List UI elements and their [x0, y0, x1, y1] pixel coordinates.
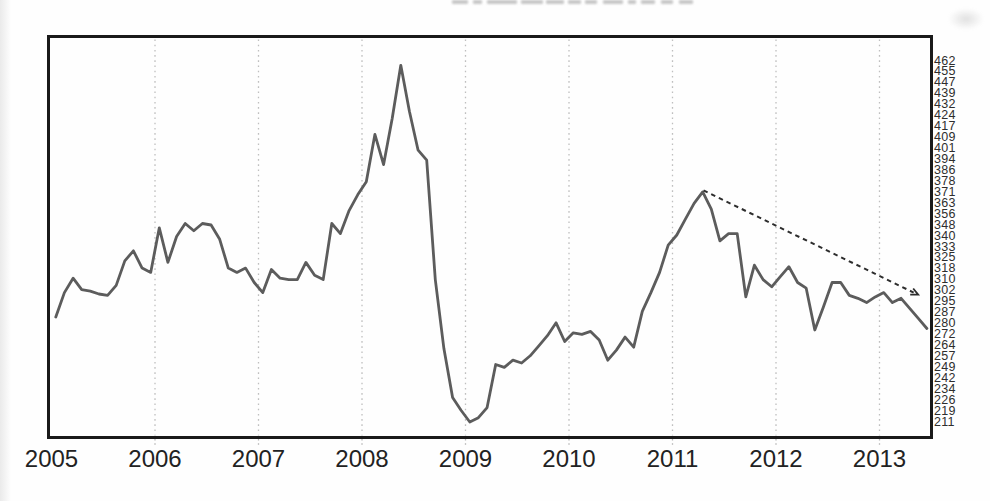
scanned-chart-page: 4624554474394324244174094013943863783713…: [0, 0, 990, 501]
data-line: [56, 65, 927, 422]
x-tick-label: 2005: [25, 447, 78, 471]
y-tick-label: 211: [934, 417, 955, 428]
trend-arrow-line: [704, 190, 914, 292]
x-tick-label: 2006: [128, 447, 181, 471]
x-tick-label: 2009: [439, 447, 492, 471]
x-tick-label: 2008: [335, 447, 388, 471]
x-tick-label: 2012: [749, 447, 802, 471]
x-tick-label: 2011: [647, 447, 699, 471]
x-tick-label: 2007: [232, 447, 285, 471]
x-tick-label: 2010: [542, 447, 595, 471]
line-chart: [0, 0, 990, 501]
x-tick-label: 2013: [853, 447, 906, 471]
